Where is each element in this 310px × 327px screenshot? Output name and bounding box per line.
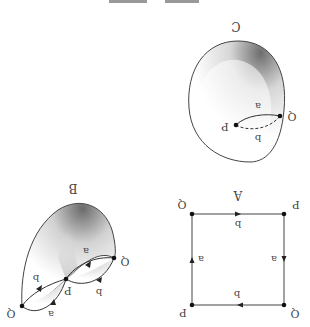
label-a-q-top-left: Q	[177, 198, 186, 211]
label-a-edge-left: a	[198, 254, 204, 265]
point-b-q-left	[20, 304, 25, 309]
label-b-q-right: Q	[120, 255, 129, 268]
label-c-b: b	[255, 133, 261, 144]
label-b-b-left: b	[33, 273, 39, 284]
label-b-a-left: a	[48, 309, 54, 320]
arrow-a-bottom	[237, 303, 243, 308]
panel-c-title: C	[231, 19, 240, 33]
panel-a: A Q P P Q b a b a	[177, 188, 299, 320]
label-a-p-bottom-left: P	[179, 306, 187, 319]
label-a-edge-right: a	[271, 254, 277, 265]
label-c-p: P	[221, 120, 229, 133]
figure: C P Q a b B	[0, 0, 310, 327]
label-b-q-left: Q	[6, 307, 15, 320]
label-b-b-right: b	[96, 287, 102, 298]
label-c-a: a	[255, 101, 261, 112]
label-b-a-right: a	[83, 246, 89, 257]
caption	[109, 0, 199, 3]
label-a-p-top-right: P	[292, 198, 300, 211]
point-c-q	[278, 114, 283, 119]
panel-a-title: A	[233, 188, 243, 202]
label-a-edge-bottom: b	[234, 289, 240, 300]
arrow-a-right	[282, 256, 287, 262]
label-b-p: P	[64, 284, 72, 297]
vertex-a-top-right	[282, 212, 287, 217]
label-a-edge-top: b	[235, 219, 241, 230]
arrow-a-top	[235, 212, 241, 217]
label-c-q: Q	[287, 110, 296, 123]
point-c-p	[234, 123, 239, 128]
arrow-a-left	[190, 257, 195, 263]
vertex-a-bottom-right	[282, 303, 287, 308]
label-a-q-bottom-right: Q	[290, 307, 299, 320]
panel-b-title: B	[68, 181, 77, 195]
vertex-a-top-left	[190, 212, 195, 217]
vertex-a-bottom-left	[190, 303, 195, 308]
panel-c: C P Q a b	[189, 19, 297, 162]
panel-b: B Q P Q b a a b	[6, 181, 129, 320]
point-b-q-right	[112, 256, 117, 261]
point-b-p	[64, 277, 69, 282]
